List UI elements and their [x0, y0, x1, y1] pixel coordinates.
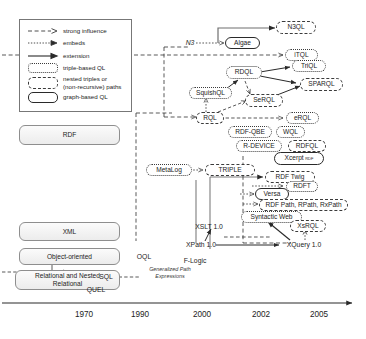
- legend-label-extension: extension: [60, 52, 90, 59]
- node-label-rdfql: RDFQL: [296, 143, 318, 150]
- node-label-xslt: XSLT 1.0: [195, 223, 223, 230]
- node-label-triple: TRIPLE: [218, 167, 241, 174]
- node-label-rql: RQL: [203, 115, 217, 122]
- node-n3ql[interactable]: N3QL: [276, 21, 316, 34]
- node-label-n3ql: N3QL: [287, 24, 304, 31]
- node-rdfql[interactable]: RDFQL: [288, 140, 326, 152]
- node-serql[interactable]: SeRQL: [245, 94, 283, 107]
- node-label-xquery: XQuery 1.0: [287, 241, 321, 248]
- timeline-tick-2005: 2005: [299, 310, 339, 319]
- node-label-syntactic-web: Syntactic Web: [250, 214, 292, 221]
- timeline-tick-1970: 1970: [64, 310, 104, 319]
- node-label-rdft: RDFT: [293, 183, 311, 190]
- node-label-gpe-line2: Expressions: [155, 273, 184, 280]
- node-erql[interactable]: eRQL: [286, 112, 319, 124]
- node-label-n3: N3: [186, 39, 195, 46]
- node-xcerpt[interactable]: Xcerpt RDF: [274, 152, 324, 165]
- node-label-metalog: MetaLog: [156, 167, 182, 174]
- node-label-sql: SQL: [99, 273, 113, 280]
- legend-label-graph-based: graph-based QL: [60, 93, 108, 100]
- model-box-rdf[interactable]: RDF: [19, 125, 120, 145]
- legend-item-embeds: embeds: [26, 38, 125, 49]
- node-oql[interactable]: OQL: [133, 252, 155, 262]
- legend-item-extension: extension: [26, 50, 125, 61]
- dashed-pill-icon: [26, 75, 60, 90]
- node-algae[interactable]: Algae: [225, 37, 260, 49]
- solid-arrow-icon: [26, 50, 60, 61]
- node-label-algae: Algae: [234, 40, 251, 47]
- node-xpath[interactable]: XPath 1.0: [180, 240, 222, 250]
- node-label-xpath: XPath 1.0: [186, 241, 216, 248]
- node-label-itql: iTQL: [294, 52, 308, 59]
- node-label-squishql: SquishQL: [196, 90, 225, 97]
- legend-label-triple-based: triple-based QL: [60, 64, 105, 71]
- node-label-oql: OQL: [137, 253, 151, 260]
- legend-label-strong-influence: strong influence: [60, 27, 107, 34]
- legend-label-nested-triples-line1: nested triples or: [63, 75, 107, 82]
- node-label-rdf-path: RDF Path, RPath, RxPath: [265, 202, 341, 209]
- node-label-xsrql: XsRQL: [297, 223, 318, 230]
- node-label-r-device: R-DEVICE: [243, 143, 275, 150]
- dotted-arrow-icon: [26, 38, 60, 49]
- node-xquery[interactable]: XQuery 1.0: [280, 240, 328, 250]
- node-label-xcerpt: Xcerpt: [285, 155, 304, 162]
- node-label-rdf-twig: RDF Twig: [276, 174, 305, 181]
- node-label-wql: WQL: [283, 129, 298, 136]
- node-label-gpe-line1: Generalized Path: [149, 266, 191, 273]
- node-sparql[interactable]: SPARQL: [300, 78, 343, 91]
- legend-label-nested-triples-line2: (non-recursive) paths: [63, 83, 121, 90]
- node-rdft[interactable]: RDFT: [286, 181, 318, 192]
- node-squishql[interactable]: SquishQL: [189, 87, 232, 99]
- node-label-rdf-qbe: RDF-QBE: [235, 129, 265, 136]
- node-label-versa: Versa: [264, 191, 281, 198]
- model-label-rdf: RDF: [63, 131, 77, 139]
- dashed-arrow-icon: [26, 25, 60, 36]
- legend: strong influence embeds extension triple…: [19, 19, 132, 112]
- node-label-sparql: SPARQL: [308, 81, 334, 88]
- legend-item-nested-triples: nested triples or (non-recursive) paths: [26, 75, 125, 90]
- timeline-tick-2000: 2000: [182, 310, 222, 319]
- model-label-object-oriented: Object-oriented: [47, 253, 92, 261]
- legend-label-embeds: embeds: [60, 39, 85, 46]
- node-wql[interactable]: WQL: [276, 126, 305, 138]
- node-metalog[interactable]: MetaLog: [146, 164, 192, 176]
- node-r-device[interactable]: R-DEVICE: [236, 140, 282, 152]
- node-label-f-logic: F-Logic: [184, 257, 207, 264]
- legend-item-triple-based: triple-based QL: [26, 63, 125, 74]
- node-generalized-path-expressions[interactable]: Generalized Path Expressions: [139, 265, 201, 281]
- node-triql[interactable]: TriQL: [292, 60, 326, 72]
- legend-item-graph-based: graph-based QL: [26, 92, 125, 103]
- model-label-xml: XML: [63, 228, 77, 236]
- node-rdf-qbe[interactable]: RDF-QBE: [228, 126, 272, 138]
- node-label-triql: TriQL: [301, 63, 317, 70]
- node-label-quel: QUEL: [87, 286, 106, 293]
- node-label-erql: eRQL: [294, 115, 311, 122]
- node-label-rdql: RDQL: [235, 69, 253, 76]
- timeline-tick-1990: 1990: [120, 310, 160, 319]
- node-label-xcerpt-suffix: RDF: [305, 157, 313, 161]
- diagram-canvas: strong influence embeds extension triple…: [0, 0, 366, 339]
- timeline-tick-2002: 2002: [241, 310, 281, 319]
- model-box-xml[interactable]: XML: [19, 222, 120, 241]
- solid-pill-icon: [26, 92, 60, 103]
- node-xslt[interactable]: XSLT 1.0: [190, 222, 228, 232]
- node-quel[interactable]: QUEL: [83, 285, 109, 295]
- model-label-relational-line2: Relational: [53, 280, 82, 287]
- model-box-object-oriented[interactable]: Object-oriented: [19, 248, 120, 265]
- node-triple[interactable]: TRIPLE: [205, 164, 255, 176]
- node-sql[interactable]: SQL: [96, 272, 116, 282]
- legend-item-strong-influence: strong influence: [26, 25, 125, 36]
- node-rdf-path[interactable]: RDF Path, RPath, RxPath: [259, 199, 348, 211]
- node-label-serql: SeRQL: [253, 97, 275, 104]
- node-n3[interactable]: N3: [182, 38, 198, 48]
- dotted-pill-icon: [26, 63, 60, 74]
- model-label-relational-line1: Relational and Nested: [35, 272, 100, 279]
- node-xsrql[interactable]: XsRQL: [290, 220, 326, 232]
- node-rql[interactable]: RQL: [196, 112, 224, 124]
- node-rdql[interactable]: RDQL: [226, 66, 262, 79]
